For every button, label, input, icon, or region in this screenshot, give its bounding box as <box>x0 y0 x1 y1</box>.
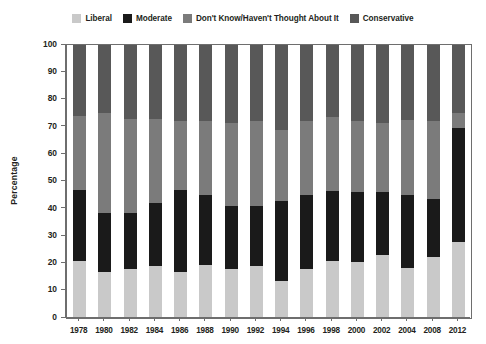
x-tick-mark <box>457 317 458 321</box>
bar-segment <box>149 45 162 119</box>
x-tick-mark <box>179 317 180 321</box>
bar-2002[interactable] <box>376 45 389 318</box>
bar-segment <box>275 281 288 318</box>
x-tick-label: 1996 <box>297 326 314 335</box>
x-tick-label: 1986 <box>171 326 188 335</box>
bar-1980[interactable] <box>98 45 111 318</box>
bar-segment <box>149 119 162 204</box>
x-tick-label: 2008 <box>423 326 440 335</box>
x-tick: 1978 <box>72 317 85 335</box>
legend-swatch-dont-know <box>183 14 192 23</box>
bar-segment <box>98 45 111 113</box>
legend-entry[interactable]: Liberal <box>72 14 112 23</box>
bar-segment <box>376 123 389 193</box>
bar-segment <box>225 45 238 123</box>
legend-label: Don't Know/Haven't Thought About It <box>196 14 339 23</box>
x-tick: 2002 <box>375 317 388 335</box>
legend-entry[interactable]: Conservative <box>350 14 414 23</box>
bar-2008[interactable] <box>427 45 440 318</box>
x-tick-mark <box>305 317 306 321</box>
x-tick: 1988 <box>198 317 211 335</box>
bar-segment <box>300 269 313 318</box>
bar-segment <box>199 265 212 318</box>
bar-segment <box>452 128 465 241</box>
bar-1978[interactable] <box>73 45 86 318</box>
bar-segment <box>326 261 339 318</box>
bar-segment <box>326 191 339 261</box>
bar-2000[interactable] <box>351 45 364 318</box>
bar-segment <box>376 192 389 255</box>
bar-segment <box>452 242 465 318</box>
x-tick-label: 1984 <box>146 326 163 335</box>
bar-segment <box>427 45 440 121</box>
bar-segment <box>351 262 364 318</box>
bar-1998[interactable] <box>326 45 339 318</box>
bar-segment <box>376 255 389 318</box>
bar-segment <box>452 45 465 113</box>
bar-segment <box>326 45 339 117</box>
y-tick-label: 50 <box>48 176 61 184</box>
x-tick: 2000 <box>350 317 363 335</box>
legend-entry[interactable]: Moderate <box>123 14 172 23</box>
bar-1996[interactable] <box>300 45 313 318</box>
y-tick-label: 70 <box>48 122 61 130</box>
x-tick-mark <box>381 317 382 321</box>
bar-segment <box>376 45 389 123</box>
y-tick-label: 20 <box>48 258 61 266</box>
bar-segment <box>149 266 162 318</box>
bar-1982[interactable] <box>124 45 137 318</box>
x-tick: 1990 <box>224 317 237 335</box>
bar-segment <box>401 195 414 267</box>
bar-1984[interactable] <box>149 45 162 318</box>
bar-1992[interactable] <box>250 45 263 318</box>
x-tick: 1996 <box>299 317 312 335</box>
bar-segment <box>225 269 238 318</box>
x-tick-label: 1982 <box>120 326 137 335</box>
bar-1990[interactable] <box>225 45 238 318</box>
legend-swatch-moderate <box>123 14 132 23</box>
legend-label: Conservative <box>363 14 414 23</box>
bar-2012[interactable] <box>452 45 465 318</box>
bar-segment <box>401 45 414 120</box>
legend-entry[interactable]: Don't Know/Haven't Thought About It <box>183 14 339 23</box>
bar-segment <box>199 121 212 195</box>
x-tick: 1986 <box>173 317 186 335</box>
bar-2004[interactable] <box>401 45 414 318</box>
x-tick-container: 1978198019821984198619881990199219941996… <box>66 317 470 344</box>
x-axis: 1978198019821984198619881990199219941996… <box>66 317 470 344</box>
x-tick: 1982 <box>123 317 136 335</box>
bar-1986[interactable] <box>174 45 187 318</box>
bar-segment <box>401 120 414 195</box>
bar-segment <box>300 121 313 195</box>
bar-segment <box>351 45 364 121</box>
bar-segment <box>73 116 86 190</box>
legend-label: Moderate <box>136 14 172 23</box>
bar-segment <box>174 45 187 121</box>
x-tick-mark <box>230 317 231 321</box>
x-tick-mark <box>331 317 332 321</box>
y-tick-label: 60 <box>48 149 61 157</box>
bar-segment <box>174 272 187 318</box>
bar-segment <box>124 119 137 213</box>
x-tick-label: 2004 <box>398 326 415 335</box>
x-tick-mark <box>255 317 256 321</box>
bar-segment <box>98 272 111 318</box>
x-tick-label: 1990 <box>221 326 238 335</box>
x-tick-mark <box>103 317 104 321</box>
bar-segment <box>174 190 187 272</box>
x-tick-mark <box>129 317 130 321</box>
x-tick: 2008 <box>426 317 439 335</box>
x-tick-mark <box>154 317 155 321</box>
x-tick: 1992 <box>249 317 262 335</box>
chart-legend: LiberalModerateDon't Know/Haven't Though… <box>0 14 486 23</box>
bar-1988[interactable] <box>199 45 212 318</box>
x-tick-label: 1988 <box>196 326 213 335</box>
bar-1994[interactable] <box>275 45 288 318</box>
x-tick: 1994 <box>274 317 287 335</box>
x-tick-mark <box>78 317 79 321</box>
bar-segment <box>73 190 86 261</box>
x-tick: 1980 <box>97 317 110 335</box>
bar-segment <box>427 257 440 318</box>
plot-area <box>66 44 472 319</box>
bar-segment <box>98 113 111 213</box>
